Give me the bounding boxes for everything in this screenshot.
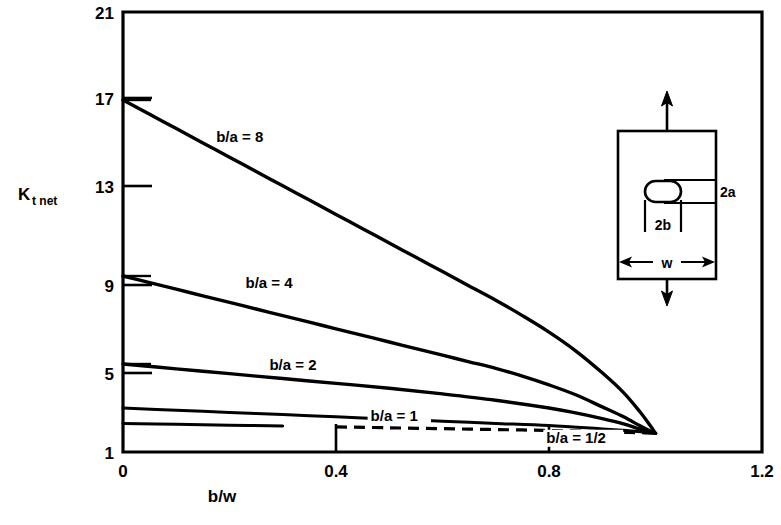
curve-label-1: b/a = 4 — [245, 274, 293, 291]
curve-0 — [123, 100, 656, 433]
x-axis-title: b/w — [208, 487, 237, 506]
y-tick-label-13: 13 — [95, 178, 114, 197]
curve-label-3: b/a = 1 — [371, 407, 418, 424]
y-axis-title-main: K — [18, 185, 31, 204]
kt-net-vs-bw-chart: 21 17 13 9 5 1 0 0.4 0.8 1.2 K t net b/w… — [0, 0, 781, 525]
x-axis-ticks — [336, 424, 549, 452]
dim-label-2b: 2b — [655, 217, 671, 233]
curve-label-4: b/a = 1/2 — [546, 429, 606, 446]
data-curves — [123, 100, 656, 433]
y-tick-label-9: 9 — [105, 277, 114, 296]
x-tick-label-0p4: 0.4 — [324, 462, 348, 481]
dim-label-w: w — [661, 255, 673, 271]
y-tick-label-5: 5 — [105, 365, 114, 384]
y-axis-title: K t net — [18, 185, 57, 208]
chart-canvas: 21 17 13 9 5 1 0 0.4 0.8 1.2 K t net b/w… — [0, 0, 781, 525]
tension-arrow-down-icon — [662, 279, 673, 306]
curve-4-solid-segment — [123, 423, 283, 426]
x-tick-label-1p2: 1.2 — [750, 462, 774, 481]
y-tick-label-17: 17 — [95, 90, 114, 109]
curve-annotations: b/a = 8b/a = 4b/a = 2b/a = 1b/a = 1/2 — [213, 128, 623, 447]
y-tick-label-21: 21 — [95, 4, 114, 23]
specimen-inset-diagram: 2a 2b w — [618, 91, 736, 306]
curve-label-0: b/a = 8 — [216, 128, 263, 145]
x-tick-label-0p8: 0.8 — [537, 462, 561, 481]
x-tick-label-0: 0 — [118, 462, 127, 481]
y-tick-label-1: 1 — [105, 444, 114, 463]
tension-arrow-up-icon — [662, 91, 673, 131]
dim-label-2a: 2a — [720, 184, 736, 200]
x-axis-tick-labels: 0 0.4 0.8 1.2 — [118, 462, 774, 481]
y-axis-title-sub: t net — [32, 194, 57, 208]
y-axis-ticks — [123, 98, 152, 373]
y-axis-tick-labels: 21 17 13 9 5 1 — [95, 4, 114, 463]
slot-hole — [645, 181, 681, 202]
curve-label-2: b/a = 2 — [269, 356, 316, 373]
